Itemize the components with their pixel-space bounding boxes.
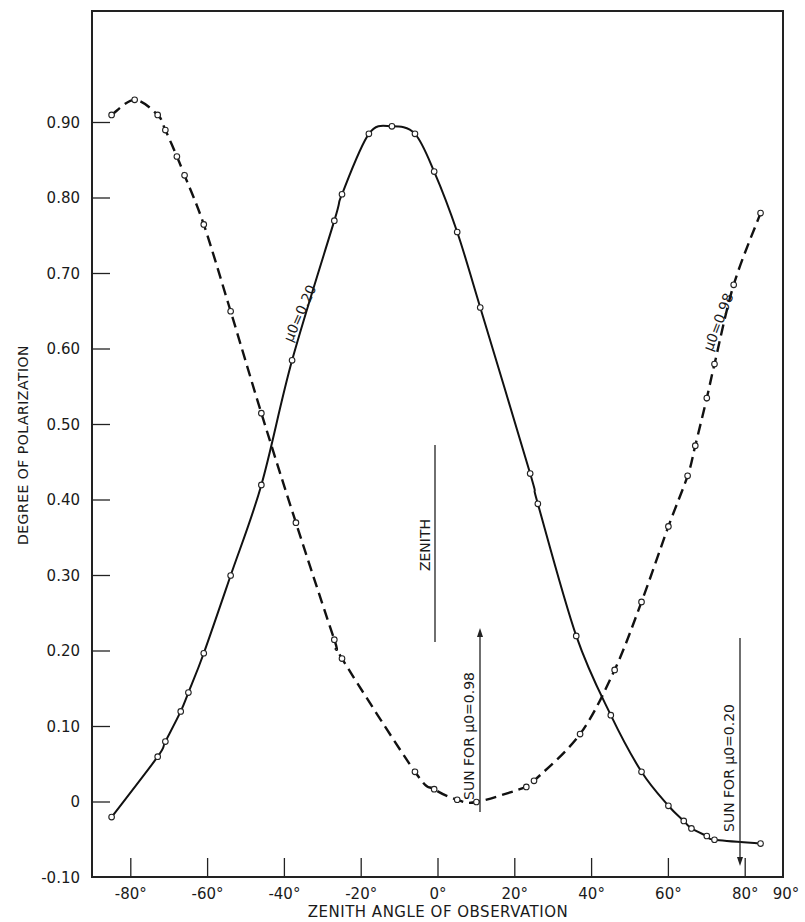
data-point	[163, 739, 169, 745]
data-point	[293, 520, 299, 526]
data-point	[454, 229, 460, 235]
polarization-chart: -0.1000.100.200.300.400.500.600.700.800.…	[0, 0, 805, 922]
data-point	[289, 358, 295, 364]
data-point	[689, 826, 695, 832]
data-point	[201, 650, 207, 656]
data-point	[332, 637, 338, 643]
y-tick-label: 0.90	[47, 114, 80, 132]
data-point	[339, 656, 345, 662]
x-axis-title: ZENITH ANGLE OF OBSERVATION	[308, 903, 568, 921]
x-tick-label: 0°	[429, 885, 446, 903]
data-points-mu-0-98	[109, 97, 764, 805]
data-point	[685, 473, 691, 479]
curve-mu-0-98	[112, 100, 761, 803]
data-point	[712, 837, 718, 843]
data-point	[228, 573, 234, 579]
data-point	[259, 410, 265, 416]
x-tick-label: 20°	[502, 885, 529, 903]
data-point	[182, 173, 188, 179]
x-tick-label: 60°	[655, 885, 682, 903]
sun-020-label: SUN FOR μ0=0.20	[721, 704, 737, 832]
curve-mu-0-20	[112, 126, 761, 844]
data-point	[477, 305, 483, 311]
data-point	[389, 123, 395, 129]
data-point	[577, 731, 583, 737]
x-axis: -80°-60°-40°-20°0°20°40°60°80°90°	[115, 858, 799, 903]
data-point	[132, 97, 138, 103]
arrow-up-icon	[477, 628, 483, 637]
x-tick-label: 80°	[732, 885, 759, 903]
data-point	[531, 778, 537, 784]
y-tick-label: 0.40	[47, 491, 80, 509]
x-tick-label: 40°	[578, 885, 605, 903]
data-point	[155, 112, 161, 118]
data-point	[339, 191, 345, 197]
y-tick-label: 0.50	[47, 416, 80, 434]
plot-frame	[92, 11, 783, 877]
curve-label-mu-0-98: μ0=0.98	[700, 291, 737, 353]
data-point	[431, 169, 437, 175]
data-point	[666, 803, 672, 809]
data-point	[412, 769, 418, 775]
x-tick-label: -20°	[345, 885, 377, 903]
x-tick-label: -40°	[268, 885, 300, 903]
data-point	[639, 599, 645, 605]
data-point	[259, 482, 265, 488]
x-tick-label: -60°	[192, 885, 224, 903]
data-point	[431, 786, 437, 792]
data-point	[731, 282, 737, 288]
data-point	[681, 818, 687, 824]
data-point	[155, 754, 161, 760]
sun-098-label: SUN FOR μ0=0.98	[461, 672, 477, 800]
data-point	[366, 131, 372, 137]
x-tick-label: 90°	[773, 885, 800, 903]
arrow-down-icon	[737, 857, 743, 866]
data-point	[178, 709, 184, 715]
y-tick-label: 0.10	[47, 718, 80, 736]
data-point	[109, 112, 115, 118]
data-point	[692, 443, 698, 449]
data-point	[186, 690, 192, 696]
data-point	[612, 667, 618, 673]
data-point	[758, 210, 764, 216]
y-axis-title: DEGREE OF POLARIZATION	[15, 345, 31, 545]
data-point	[109, 814, 115, 820]
data-point	[712, 361, 718, 367]
y-tick-label: 0.60	[47, 340, 80, 358]
data-point	[163, 127, 169, 133]
data-point	[412, 131, 418, 137]
zenith-label: ZENITH	[417, 519, 433, 571]
data-points-mu-0-20	[109, 123, 764, 846]
data-point	[174, 154, 180, 160]
data-point	[639, 769, 645, 775]
data-point	[666, 524, 672, 530]
y-axis: -0.1000.100.200.300.400.500.600.700.800.…	[41, 114, 110, 887]
data-point	[573, 633, 579, 639]
y-tick-label: 0.70	[47, 265, 80, 283]
data-point	[704, 833, 710, 839]
data-point	[527, 471, 533, 477]
y-tick-label: 0.30	[47, 567, 80, 585]
data-point	[758, 841, 764, 847]
data-point	[535, 501, 541, 507]
data-point	[201, 222, 207, 228]
y-tick-label: 0	[70, 793, 80, 811]
x-tick-label: -80°	[115, 885, 147, 903]
y-tick-label: 0.80	[47, 189, 80, 207]
data-point	[524, 784, 530, 790]
data-point	[332, 218, 338, 224]
data-point	[454, 797, 460, 803]
data-point	[228, 308, 234, 314]
y-tick-label: -0.10	[41, 869, 80, 887]
y-tick-label: 0.20	[47, 642, 80, 660]
data-point	[704, 395, 710, 401]
data-point	[608, 712, 614, 718]
